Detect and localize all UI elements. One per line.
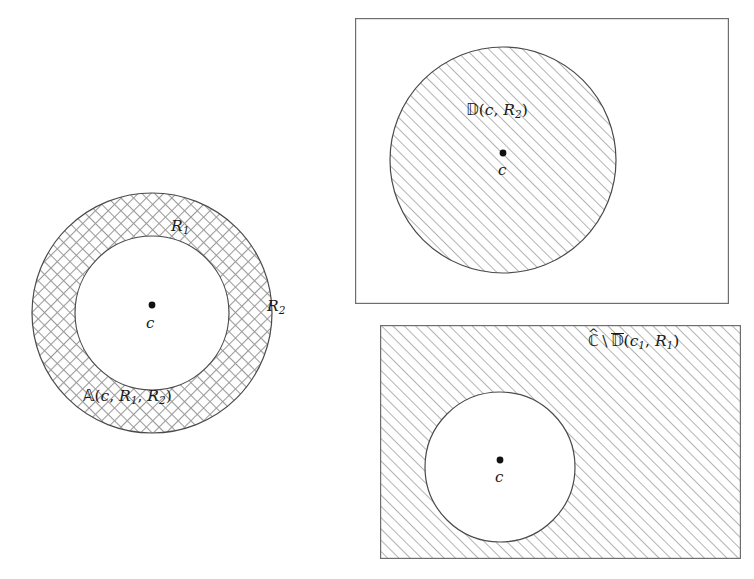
arg-r2-base: R [147,387,159,405]
complement-svg [380,325,741,559]
radius-base: R [267,297,279,315]
arg-c: c [101,387,110,405]
arg-r2-sub: 2 [159,394,166,406]
setminus-operator: \ [602,332,607,350]
radius-subscript: 1 [183,224,190,236]
hat-accent: ^ [588,327,599,340]
arg-r2-sub: 2 [515,108,522,120]
complement-region-label: ^ℂ\𝔻(c1, R1) [588,333,679,350]
annulus-region-label: 𝔸(c, R1, R2) [83,389,172,405]
disk-svg [355,18,729,304]
comma-2: , [137,387,147,405]
center-letter: c [495,468,503,486]
annulus-center-label: c [146,316,154,331]
annulus-inner-radius-label: R1 [171,219,189,235]
paren-close: ) [166,387,172,405]
blackboard-a-symbol: 𝔸 [83,387,94,405]
disk-region-label: 𝔻(c, R2) [466,103,528,119]
complement-region-fill [380,325,741,559]
disk-panel: 𝔻(c, R2) c [355,18,729,304]
paren-close: ) [673,332,679,350]
disk-circle [390,47,616,273]
paren-close: ) [522,101,528,119]
complement-panel: ^ℂ\𝔻(c1, R1) c [380,325,741,559]
comma-1: , [493,101,503,119]
center-letter: c [146,314,154,332]
complement-center-dot [497,457,504,464]
annulus-center-dot [149,302,156,309]
disk-center-dot [500,150,507,157]
arg-r1-base: R [655,332,667,350]
annulus-panel: R1 R2 c 𝔸(c, R1, R2) [0,0,320,460]
math-figure: R1 R2 c 𝔸(c, R1, R2) 𝔻(c, R2) c [0,0,754,579]
comma-1: , [109,387,119,405]
arg-r1-base: R [119,387,131,405]
c-hat-wrapper: ^ℂ [588,334,599,350]
center-letter: c [498,161,506,179]
comma-1: , [645,332,655,350]
disk-center-label: c [498,163,506,178]
arg-r2-base: R [503,101,515,119]
radius-subscript: 2 [279,304,286,316]
annulus-outer-radius-label: R2 [267,299,285,315]
complement-center-label: c [495,470,503,485]
radius-base: R [171,217,183,235]
blackboard-d-closure-symbol: 𝔻 [611,333,624,350]
blackboard-d-symbol: 𝔻 [466,101,479,119]
